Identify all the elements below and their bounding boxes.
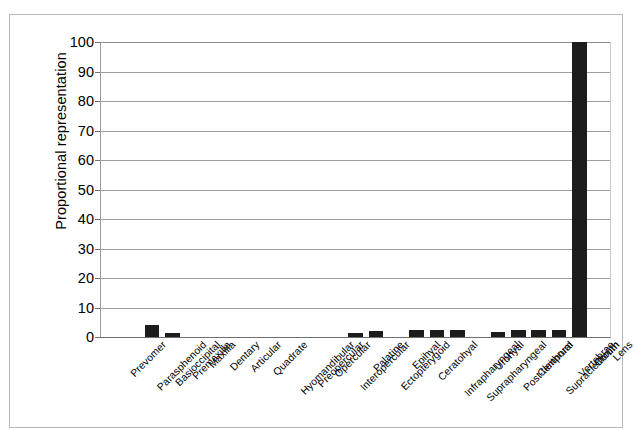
y-tick-label: 50 [78, 182, 94, 198]
y-tick-mark [95, 160, 100, 161]
plot-area [100, 42, 611, 338]
y-tick-label: 0 [86, 329, 94, 345]
bar-slot [549, 42, 569, 337]
bar-slot [569, 42, 589, 337]
y-tick-mark [95, 219, 100, 220]
bar-slot [386, 42, 406, 337]
bar-slot [325, 42, 345, 337]
bar[interactable] [491, 332, 506, 337]
bar-slot [223, 42, 243, 337]
bar-slot [305, 42, 325, 337]
bar-slot [203, 42, 223, 337]
y-tick-mark [95, 190, 100, 191]
bar-slot [284, 42, 304, 337]
bar-slot [101, 42, 121, 337]
y-tick-label: 100 [70, 34, 94, 50]
y-tick-label: 70 [78, 123, 94, 139]
bar-slot [406, 42, 426, 337]
y-tick-mark [95, 249, 100, 250]
bar[interactable] [348, 333, 363, 337]
y-tick-mark [95, 101, 100, 102]
y-tick-mark [95, 308, 100, 309]
bar-slot [427, 42, 447, 337]
bar-slot [366, 42, 386, 337]
y-tick-mark [95, 337, 100, 338]
chart-figure-frame: Proportional representation 010203040506… [9, 14, 623, 428]
y-tick-label: 80 [78, 93, 94, 109]
y-tick-label: 30 [78, 241, 94, 257]
bar-slot [182, 42, 202, 337]
y-tick-mark [95, 72, 100, 73]
bar-slot [142, 42, 162, 337]
bar-slot [590, 42, 610, 337]
bar[interactable] [369, 331, 384, 337]
y-axis-title: Proportional representation [53, 26, 69, 256]
bar-slot [447, 42, 467, 337]
bars-series [101, 42, 610, 337]
bar-slot [488, 42, 508, 337]
x-axis-labels: PrevomerParasphenoidBasioccipitalPremaxi… [100, 339, 611, 435]
bar-slot [121, 42, 141, 337]
y-tick-label: 10 [78, 300, 94, 316]
bar-slot [264, 42, 284, 337]
y-tick-mark [95, 278, 100, 279]
y-tick-mark [95, 131, 100, 132]
bar[interactable] [531, 330, 546, 337]
bar[interactable] [552, 330, 567, 337]
bar-slot [345, 42, 365, 337]
x-tick-label: Prevomer [128, 339, 168, 379]
bar[interactable] [511, 330, 526, 337]
bar-slot [508, 42, 528, 337]
bar-slot [162, 42, 182, 337]
bar[interactable] [430, 330, 445, 337]
y-tick-label: 60 [78, 152, 94, 168]
bar-slot [467, 42, 487, 337]
y-tick-label: 20 [78, 270, 94, 286]
bar[interactable] [165, 333, 180, 337]
y-tick-mark [95, 42, 100, 43]
bar[interactable] [409, 330, 424, 337]
y-tick-label: 90 [78, 64, 94, 80]
bar-slot [529, 42, 549, 337]
y-tick-label: 40 [78, 211, 94, 227]
bar[interactable] [572, 42, 587, 337]
bar[interactable] [145, 325, 160, 337]
bar[interactable] [450, 330, 465, 337]
bar-slot [244, 42, 264, 337]
